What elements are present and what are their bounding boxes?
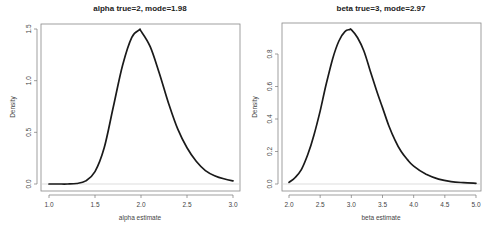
plot-frame (41, 24, 240, 191)
beta-density-plot: beta true=3, mode=2.97 2.0 2.5 3.0 3.5 4… (251, 4, 481, 221)
x-axis-label: beta estimate (361, 214, 400, 221)
y-tick-label: 0.5 (25, 127, 32, 136)
density-curve (49, 29, 233, 184)
x-axis: 2.0 2.5 3.0 3.5 4.0 4.5 5.0 (284, 195, 480, 208)
x-tick-label: 5.0 (471, 201, 480, 208)
figure: alpha true=2, mode=1.98 1.0 1.5 2.0 2.5 … (0, 0, 490, 230)
x-tick-label: 4.5 (440, 201, 449, 208)
y-axis-label: Density (251, 95, 259, 117)
y-tick-label: 0.6 (266, 82, 273, 91)
y-tick-label: 1.5 (25, 24, 32, 33)
x-tick-label: 2.5 (316, 201, 325, 208)
alpha-density-plot: alpha true=2, mode=1.98 1.0 1.5 2.0 2.5 … (9, 4, 240, 222)
y-tick-label: 0.0 (266, 179, 273, 188)
y-tick-label: 0.8 (266, 49, 273, 58)
y-tick-label: 0.2 (266, 147, 273, 156)
x-tick-label: 2.0 (284, 201, 293, 208)
y-tick-label: 0.0 (25, 179, 32, 188)
y-tick-label: 0.4 (266, 114, 273, 123)
y-axis-label: Density (9, 95, 17, 117)
y-axis: 0.0 0.5 1.0 1.5 (25, 24, 37, 188)
density-curve (289, 29, 476, 183)
y-tick-label: 1.0 (25, 76, 32, 85)
x-tick-label: 1.5 (90, 201, 99, 208)
y-axis: 0.0 0.2 0.4 0.6 0.8 (266, 49, 278, 188)
x-tick-label: 2.5 (182, 201, 191, 208)
x-axis: 1.0 1.5 2.0 2.5 3.0 (44, 195, 237, 208)
plot-title: beta true=3, mode=2.97 (337, 4, 426, 13)
x-tick-label: 3.0 (347, 201, 356, 208)
x-tick-label: 3.0 (228, 201, 237, 208)
plot-title: alpha true=2, mode=1.98 (93, 4, 187, 13)
x-tick-label: 1.0 (44, 201, 53, 208)
x-axis-label: alpha estimate (119, 214, 162, 222)
x-tick-label: 4.0 (409, 201, 418, 208)
x-tick-label: 3.5 (378, 201, 387, 208)
x-tick-label: 2.0 (136, 201, 145, 208)
